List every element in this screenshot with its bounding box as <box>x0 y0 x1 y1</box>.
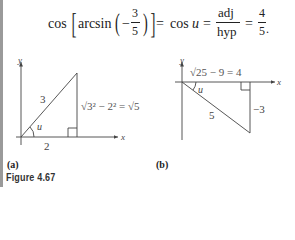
a-right-angle <box>68 128 77 137</box>
b-angle-label: u <box>198 84 203 95</box>
b-angle-arc <box>193 82 196 90</box>
a-angle-arc <box>30 127 34 137</box>
a-panel-label: (a) <box>7 159 19 170</box>
b-y-label: y <box>180 55 184 65</box>
a-x-label: x <box>121 132 125 142</box>
b-hyp-label: 5 <box>209 109 215 121</box>
figure-caption: Figure 4.67 <box>6 171 55 183</box>
b-hypotenuse <box>182 82 250 133</box>
b-x-label: x <box>277 77 281 87</box>
b-top-label: √25 − 9 = 4 <box>190 66 241 78</box>
b-panel-label: (b) <box>156 159 168 170</box>
a-angle-label: u <box>37 121 42 132</box>
a-hyp-label: 3 <box>40 93 46 105</box>
b-side-label: −3 <box>253 103 265 115</box>
a-hypotenuse <box>21 73 77 137</box>
b-right-angle <box>241 82 250 90</box>
a-y-label: y <box>18 55 22 65</box>
a-side-label: √3² − 2² = √5 <box>81 100 140 112</box>
a-base-label: 2 <box>44 140 50 152</box>
